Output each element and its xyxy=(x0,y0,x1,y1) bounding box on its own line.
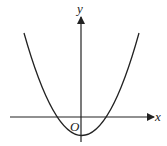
parabola-diagram: y x O xyxy=(0,0,167,146)
x-axis-label: x xyxy=(154,109,161,124)
y-axis-label: y xyxy=(75,1,83,16)
origin-label: O xyxy=(70,119,80,134)
